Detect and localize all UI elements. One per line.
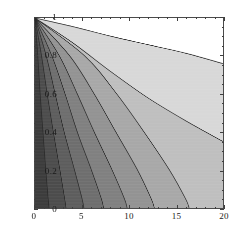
y-minor-tick-right [222, 27, 224, 28]
y-minor-tick-right [222, 199, 224, 200]
x-minor-tick [167, 207, 168, 209]
y-minor-tick [34, 27, 36, 28]
y-minor-tick [34, 84, 36, 85]
x-major-tick [82, 205, 83, 209]
y-minor-tick [34, 161, 36, 162]
x-tick-label: 10 [124, 211, 134, 221]
x-minor-tick [91, 207, 92, 209]
x-minor-tick-top [139, 17, 140, 19]
y-minor-tick [34, 123, 36, 124]
x-minor-tick-top [53, 17, 54, 19]
y-tick-label: 0 [52, 204, 57, 214]
y-major-tick [34, 209, 38, 210]
x-tick-label: 20 [219, 211, 229, 221]
x-major-tick [177, 205, 178, 209]
x-minor-tick-top [148, 17, 149, 19]
x-minor-tick-top [44, 17, 45, 19]
x-major-tick-top [129, 17, 130, 21]
y-minor-tick [34, 36, 36, 37]
y-tick-label: 0.8 [45, 50, 57, 60]
x-major-tick-top [177, 17, 178, 21]
y-major-tick [34, 132, 38, 133]
x-minor-tick-top [72, 17, 73, 19]
y-minor-tick [34, 65, 36, 66]
y-major-tick [34, 17, 38, 18]
x-minor-tick [215, 207, 216, 209]
x-minor-tick-top [205, 17, 206, 19]
x-minor-tick-top [196, 17, 197, 19]
x-tick-label: 15 [172, 211, 182, 221]
y-minor-tick-right [222, 103, 224, 104]
y-minor-tick-right [222, 190, 224, 191]
x-minor-tick [120, 207, 121, 209]
x-tick-label: 5 [79, 211, 84, 221]
y-minor-tick-right [222, 36, 224, 37]
x-major-tick [224, 205, 225, 209]
x-minor-tick [205, 207, 206, 209]
y-minor-tick [34, 103, 36, 104]
x-minor-tick-top [167, 17, 168, 19]
y-minor-tick [34, 113, 36, 114]
x-major-tick-top [82, 17, 83, 21]
x-minor-tick-top [120, 17, 121, 19]
x-major-tick-top [224, 17, 225, 21]
y-major-tick-right [220, 171, 224, 172]
x-minor-tick [72, 207, 73, 209]
x-minor-tick-top [110, 17, 111, 19]
y-minor-tick-right [222, 113, 224, 114]
y-minor-tick-right [222, 123, 224, 124]
y-tick-label: 0.4 [45, 127, 57, 137]
y-minor-tick [34, 180, 36, 181]
y-minor-tick-right [222, 46, 224, 47]
x-minor-tick-top [91, 17, 92, 19]
x-minor-tick-top [215, 17, 216, 19]
y-minor-tick-right [222, 161, 224, 162]
y-minor-tick [34, 142, 36, 143]
x-minor-tick [148, 207, 149, 209]
y-tick-label: 0.2 [45, 166, 57, 176]
x-minor-tick-top [158, 17, 159, 19]
y-minor-tick [34, 190, 36, 191]
x-minor-tick [101, 207, 102, 209]
y-major-tick-right [220, 209, 224, 210]
y-major-tick-right [220, 17, 224, 18]
x-minor-tick [139, 207, 140, 209]
y-minor-tick [34, 46, 36, 47]
y-minor-tick-right [222, 151, 224, 152]
x-tick-label: 0 [32, 211, 37, 221]
plot-frame [34, 17, 224, 209]
y-minor-tick-right [222, 65, 224, 66]
x-minor-tick-top [101, 17, 102, 19]
y-major-tick-right [220, 132, 224, 133]
contour-plot-figure: 00.20.40.60.81 05101520 [0, 0, 236, 242]
y-major-tick-right [220, 55, 224, 56]
y-major-tick [34, 55, 38, 56]
y-major-tick-right [220, 94, 224, 95]
x-minor-tick [63, 207, 64, 209]
x-minor-tick-top [63, 17, 64, 19]
y-minor-tick [34, 151, 36, 152]
y-minor-tick-right [222, 75, 224, 76]
x-minor-tick [186, 207, 187, 209]
y-major-tick [34, 94, 38, 95]
y-minor-tick-right [222, 180, 224, 181]
y-minor-tick-right [222, 84, 224, 85]
y-minor-tick [34, 75, 36, 76]
x-major-tick [129, 205, 130, 209]
y-major-tick [34, 171, 38, 172]
x-minor-tick [53, 207, 54, 209]
y-tick-label: 0.6 [45, 89, 57, 99]
contour-plot-canvas [35, 18, 223, 208]
x-minor-tick [110, 207, 111, 209]
x-minor-tick-top [186, 17, 187, 19]
x-minor-tick [158, 207, 159, 209]
y-minor-tick-right [222, 142, 224, 143]
x-minor-tick [196, 207, 197, 209]
y-minor-tick [34, 199, 36, 200]
x-minor-tick [44, 207, 45, 209]
